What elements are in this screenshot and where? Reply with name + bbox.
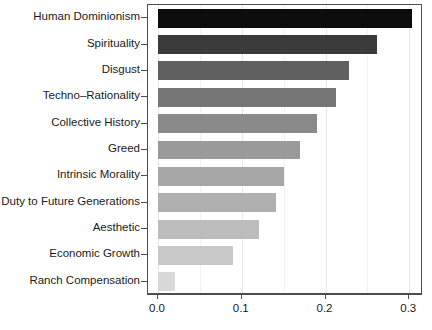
y-axis-tick xyxy=(141,96,147,97)
category-label: Greed xyxy=(108,143,140,155)
category-axis-labels: Human DominionismSpiritualityDisgustTech… xyxy=(0,0,140,298)
category-label: Spirituality xyxy=(87,38,140,50)
x-axis-tick xyxy=(157,294,158,299)
x-axis-tick xyxy=(241,294,242,299)
x-axis-tick-label: 0.3 xyxy=(400,302,416,314)
category-label: Aesthetic xyxy=(93,222,140,234)
y-axis-tick xyxy=(141,175,147,176)
y-axis-tick xyxy=(141,123,147,124)
x-axis-tick xyxy=(325,294,326,299)
bar xyxy=(158,167,284,186)
x-axis-tick-label: 0.1 xyxy=(233,302,249,314)
bar xyxy=(158,141,300,160)
category-label: Collective History xyxy=(51,117,140,129)
x-axis-tick xyxy=(408,294,409,299)
bar xyxy=(158,9,412,28)
y-axis-tick xyxy=(141,281,147,282)
category-label: Intrinsic Morality xyxy=(57,170,140,182)
y-axis-tick xyxy=(141,149,147,150)
x-axis-tick-label: 0.2 xyxy=(317,302,333,314)
bar xyxy=(158,114,317,133)
y-axis-tick xyxy=(141,228,147,229)
bar xyxy=(158,193,276,212)
category-label: Economic Growth xyxy=(49,249,140,261)
x-axis-line xyxy=(147,294,422,295)
category-label: Human Dominionism xyxy=(33,11,140,23)
bar xyxy=(158,246,233,265)
plot-area xyxy=(147,4,422,294)
y-axis-tick xyxy=(141,17,147,18)
gridline-x-0.3 xyxy=(409,5,410,293)
bar xyxy=(158,272,175,291)
category-label: Techno–Rationality xyxy=(43,91,140,103)
category-label: Ranch Compensation xyxy=(29,275,140,287)
bar xyxy=(158,61,349,80)
category-label: Disgust xyxy=(102,64,140,76)
y-axis-tick xyxy=(141,254,147,255)
y-axis-tick xyxy=(141,44,147,45)
y-axis-tick xyxy=(141,70,147,71)
y-axis-tick xyxy=(141,202,147,203)
x-axis-tick-label: 0.0 xyxy=(149,302,165,314)
bar-chart: Human DominionismSpiritualityDisgustTech… xyxy=(0,0,432,330)
category-label: Duty to Future Generations xyxy=(1,196,140,208)
bar xyxy=(158,88,336,107)
bar xyxy=(158,220,259,239)
bar xyxy=(158,35,377,54)
